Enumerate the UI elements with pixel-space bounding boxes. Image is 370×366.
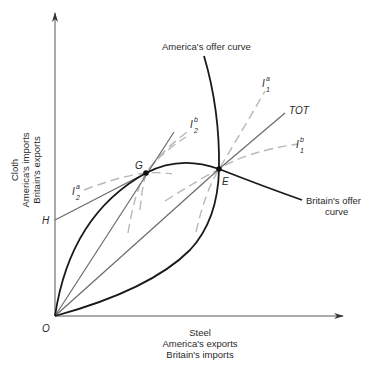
x-axis-label: Steel America's exports Britain's import… [162,327,237,360]
y-axis-label-line-1: Cloth [9,159,20,181]
label-i2a-main: I [72,186,75,197]
x-axis-label-line-3: Britain's imports [166,349,234,360]
label-i2b-sup: b [194,116,198,123]
point-g-label: G [135,160,143,171]
indifference-curve-i1b [165,144,298,201]
indifference-curve-i1a [196,91,265,232]
britain-offer-curve-label-line-1: Britain's offer [306,195,361,206]
label-i2a: I a 2 [72,183,80,201]
tot-label: TOT [289,105,310,116]
x-axis-label-line-2: America's exports [162,338,237,349]
britain-offer-curve-label-line-2: curve [325,206,348,217]
indifference-curve-i2a [84,173,172,190]
america-offer-curve-label: America's offer curve [162,41,251,52]
indifference-curve-i2b [128,130,190,233]
label-i2a-sub: 2 [75,194,80,201]
tot-line [219,113,285,169]
label-i1a-sup: a [266,75,270,82]
point-h-label: H [42,215,50,226]
y-axis-label: Cloth America's imports Britain's export… [9,132,42,207]
label-i1a-main: I [262,78,265,89]
britain-offer-curve [55,163,302,316]
y-axis-label-line-3: Britain's exports [31,136,42,204]
origin-label: O [42,323,50,334]
label-i2a-sup: a [76,183,80,190]
label-i2b-sub: 2 [193,127,198,134]
label-i2b-main: I [190,119,193,130]
label-i1b-main: I [296,139,299,150]
label-i1b-sup: b [300,136,304,143]
label-i1a: I a 1 [262,75,270,93]
label-i2b: I b 2 [190,116,198,134]
label-i1b: I b 1 [296,136,304,154]
point-e-marker [216,166,222,172]
point-g-marker [143,170,149,176]
ray-origin-to-g [55,132,174,316]
ray-origin-to-e [55,169,219,316]
point-e-label: E [222,176,229,187]
y-axis-label-line-2: America's imports [20,132,31,207]
label-i1b-sub: 1 [300,147,304,154]
x-axis-label-line-1: Steel [189,327,211,338]
label-i1a-sub: 1 [266,86,270,93]
offer-curve-diagram: Cloth America's imports Britain's export… [0,0,370,366]
